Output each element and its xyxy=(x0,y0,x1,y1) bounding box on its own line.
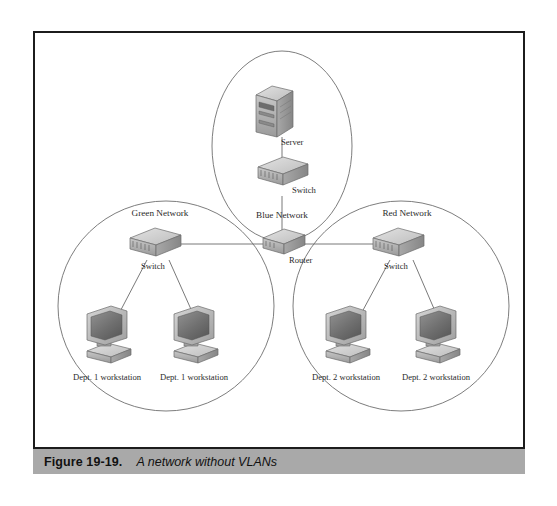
green-workstation-1-label: Dept. 1 workstation xyxy=(73,372,142,382)
figure-frame: Server xyxy=(33,31,525,474)
network-diagram-svg: Server xyxy=(35,33,523,472)
red-workstation-2-label: Dept. 2 workstation xyxy=(402,372,471,382)
figure-root: Server xyxy=(0,0,557,506)
workstation-icon-red-1 xyxy=(326,306,370,363)
red-switch-label: Switch xyxy=(384,261,409,271)
server-label: Server xyxy=(281,137,304,147)
router-icon xyxy=(263,229,305,254)
node-red-workstation-1[interactable]: Dept. 2 workstation xyxy=(312,306,381,382)
network-diagram-canvas: Server xyxy=(35,33,523,472)
figure-caption-title: A network without VLANs xyxy=(136,455,277,469)
figure-caption-number: Figure 19-19. xyxy=(44,455,122,469)
router-label: Router xyxy=(289,255,313,265)
node-red-workstation-2[interactable]: Dept. 2 workstation xyxy=(402,306,471,382)
node-green-workstation-2[interactable]: Dept. 1 workstation xyxy=(160,306,229,382)
cloud-red-network-label: Red Network xyxy=(382,208,432,218)
node-blue-switch[interactable]: Switch xyxy=(258,157,317,195)
node-server[interactable]: Server xyxy=(256,86,304,147)
figure-caption-bar: Figure 19-19. A network without VLANs xyxy=(33,447,525,474)
green-switch-label: Switch xyxy=(141,261,166,271)
switch-icon-blue xyxy=(258,157,308,185)
green-workstation-2-label: Dept. 1 workstation xyxy=(160,372,229,382)
switch-icon-red xyxy=(373,228,424,256)
red-workstation-1-label: Dept. 2 workstation xyxy=(312,372,381,382)
cloud-blue-network-label: Blue Network xyxy=(256,210,308,220)
cloud-green-network-label: Green Network xyxy=(132,208,189,218)
blue-switch-label: Switch xyxy=(292,185,317,195)
switch-icon-green xyxy=(130,228,181,256)
workstation-icon-red-2 xyxy=(416,306,460,363)
node-red-switch[interactable]: Switch xyxy=(373,228,424,271)
node-green-workstation-1[interactable]: Dept. 1 workstation xyxy=(73,306,142,382)
node-green-switch[interactable]: Switch xyxy=(130,228,181,271)
workstation-icon-green-1 xyxy=(87,306,131,363)
server-icon xyxy=(256,86,293,137)
node-router[interactable]: Router xyxy=(263,229,313,265)
workstation-icon-green-2 xyxy=(174,306,218,363)
